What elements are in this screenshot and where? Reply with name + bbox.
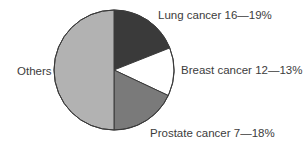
pie-slice-others [54,10,114,130]
pie-slices [54,10,174,130]
label-breast-cancer: Breast cancer 12—13% [181,64,302,76]
label-prostate-cancer: Prostate cancer 7—18% [150,127,275,139]
label-others: Others [17,65,52,77]
label-lung-cancer: Lung cancer 16—19% [158,9,272,21]
